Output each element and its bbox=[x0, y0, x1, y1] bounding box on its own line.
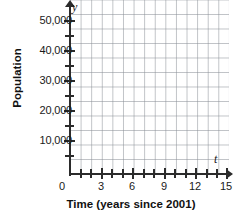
x-tick-7 bbox=[143, 169, 145, 178]
x-axis-line bbox=[69, 173, 227, 175]
y-axis-variable-label: y bbox=[72, 0, 77, 15]
y-tick-label-30000: 30,000 bbox=[40, 74, 72, 86]
y-tick-15000 bbox=[65, 125, 74, 127]
x-tick-label-3: 3 bbox=[98, 180, 104, 192]
x-tick-4 bbox=[111, 169, 113, 178]
x-tick-12 bbox=[195, 168, 197, 179]
y-tick-45000 bbox=[65, 35, 74, 37]
y-tick-35000 bbox=[65, 65, 74, 67]
x-tick-8 bbox=[153, 169, 155, 178]
x-tick-label-9: 9 bbox=[161, 180, 167, 192]
x-tick-label-0: 0 bbox=[59, 180, 65, 192]
x-tick-11 bbox=[185, 169, 187, 178]
x-tick-10 bbox=[174, 169, 176, 178]
y-tick-5000 bbox=[65, 155, 74, 157]
x-tick-5 bbox=[122, 169, 124, 178]
y-axis-title: Population bbox=[11, 18, 23, 138]
y-tick-label-50000: 50,000 bbox=[40, 14, 72, 26]
plot-grid-area bbox=[70, 0, 229, 174]
x-axis-title: Time (years since 2001) bbox=[0, 198, 238, 210]
x-tick-label-15: 15 bbox=[220, 180, 232, 192]
y-tick-25000 bbox=[65, 95, 74, 97]
x-tick-6 bbox=[132, 168, 134, 179]
x-tick-14 bbox=[216, 169, 218, 178]
y-tick-label-20000: 20,000 bbox=[40, 104, 72, 116]
x-tick-15 bbox=[226, 168, 228, 179]
y-tick-label-40000: 40,000 bbox=[40, 44, 72, 56]
x-tick-3 bbox=[101, 168, 103, 179]
y-tick-label-10000: 10,000 bbox=[40, 134, 72, 146]
population-vs-time-chart: 50,000 40,000 30,000 20,000 10,000 0 3 6… bbox=[0, 0, 238, 219]
x-tick-13 bbox=[206, 169, 208, 178]
x-tick-label-12: 12 bbox=[189, 180, 201, 192]
x-tick-label-6: 6 bbox=[129, 180, 135, 192]
x-tick-1 bbox=[80, 169, 82, 178]
y-axis-line bbox=[69, 6, 71, 176]
x-tick-9 bbox=[164, 168, 166, 179]
x-tick-2 bbox=[90, 169, 92, 178]
x-axis-variable-label: t bbox=[214, 152, 217, 167]
